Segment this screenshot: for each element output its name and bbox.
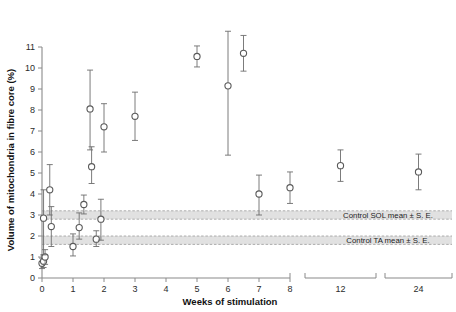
data-point-marker [47, 187, 53, 193]
data-point-group [98, 199, 104, 240]
x-axis-tick-label: 24 [413, 284, 423, 294]
data-point-marker [81, 201, 87, 207]
axis-labels-layer: Volume of mitochondria in fibre core (%)… [5, 69, 278, 307]
x-axis-title: Weeks of stimulation [183, 296, 278, 307]
data-point-marker [48, 223, 54, 229]
data-point-marker [240, 50, 246, 56]
data-point-marker [98, 216, 104, 222]
y-axis-tick-label: 1 [30, 252, 35, 262]
y-axis-tick-label: 6 [30, 147, 35, 157]
x-axis-tick-label: 6 [225, 284, 230, 294]
data-point-group [101, 104, 107, 152]
data-point-marker [225, 83, 231, 89]
data-point-group [287, 172, 293, 204]
x-axis-tick-label: 3 [132, 284, 137, 294]
y-axis-title: Volume of mitochondria in fibre core (%) [5, 69, 16, 251]
data-point-marker [87, 106, 93, 112]
y-axis-tick-label: 2 [30, 231, 35, 241]
y-axis-tick-label: 8 [30, 105, 35, 115]
data-point-marker [101, 124, 107, 130]
y-axis-tick-label: 9 [30, 84, 35, 94]
data-point-marker [40, 215, 46, 221]
data-point-marker [70, 243, 76, 249]
data-point-group [132, 92, 138, 140]
x-axis-tick-label: 4 [163, 284, 168, 294]
x-axis-tick-label: 2 [101, 284, 106, 294]
data-point-marker [76, 225, 82, 231]
data-point-group [240, 35, 246, 71]
data-point-marker [89, 164, 95, 170]
x-axis-tick-label: 8 [287, 284, 292, 294]
x-axis-tick-label: 12 [335, 284, 345, 294]
y-axis-tick-label: 0 [30, 273, 35, 283]
chart-figure: 012345678910110123456781224 Volume of mi… [0, 0, 456, 312]
data-point-marker [132, 113, 138, 119]
data-point-group [194, 46, 200, 67]
data-point-group [337, 150, 343, 182]
data-point-marker [93, 236, 99, 242]
data-point-group [89, 147, 95, 184]
y-axis-tick-label: 7 [30, 126, 35, 136]
control-band-label: Control TA mean ± S. E. [346, 236, 429, 245]
data-point-marker [256, 191, 262, 197]
y-axis-tick-label: 4 [30, 189, 35, 199]
data-point-group [47, 165, 53, 215]
x-axis-tick-label: 5 [194, 284, 199, 294]
y-axis-tick-label: 11 [26, 42, 35, 52]
data-point-marker [415, 169, 421, 175]
control-band-label: Control SOL mean ± S. E. [343, 211, 433, 220]
data-point-group [256, 175, 262, 215]
data-point-marker [194, 53, 200, 59]
data-point-group [87, 70, 93, 150]
data-point-marker [337, 163, 343, 169]
mitochondria-volume-scatter-chart: 012345678910110123456781224 Volume of mi… [0, 0, 456, 312]
data-point-marker [287, 185, 293, 191]
x-axis-tick-label: 7 [256, 284, 261, 294]
x-axis-tick-label: 0 [39, 284, 44, 294]
x-axis-tick-label: 1 [70, 284, 75, 294]
data-point-group [225, 31, 231, 155]
y-axis-tick-label: 3 [30, 210, 35, 220]
data-point-group [415, 154, 421, 190]
data-point-group [40, 190, 46, 255]
band-labels-layer: Control SOL mean ± S. E.Control TA mean … [343, 211, 433, 245]
y-axis-tick-label: 10 [25, 63, 35, 73]
data-points-layer [39, 31, 422, 268]
y-axis-tick-label: 5 [30, 168, 35, 178]
